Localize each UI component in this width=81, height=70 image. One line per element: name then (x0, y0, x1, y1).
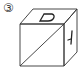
top-face-letter-d (40, 14, 54, 21)
cube-diagram (0, 0, 81, 70)
front-face-diagonal (20, 24, 64, 66)
cube-top-face (20, 9, 77, 24)
cube-right-face (64, 9, 77, 66)
right-face-glyph (68, 31, 72, 44)
